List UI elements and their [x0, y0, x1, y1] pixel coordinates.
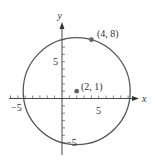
- center-point: [74, 89, 79, 94]
- center-point-label: (2, 1): [81, 81, 103, 93]
- y-axis-label: y: [57, 10, 63, 21]
- x-axis-arrow-icon: [132, 96, 139, 101]
- x-tick-label-neg5: −5: [11, 102, 22, 113]
- circle-point-label: (4, 8): [97, 28, 119, 40]
- y-tick-label-neg5: −5: [66, 137, 77, 148]
- x-axis-label: x: [141, 93, 147, 104]
- y-tick-label-5: 5: [53, 56, 58, 67]
- circle-diagram: y x −5 5 5 −5 (2, 1) (4, 8): [0, 0, 156, 160]
- x-tick-label-5: 5: [96, 105, 101, 116]
- y-axis-arrow-icon: [60, 22, 65, 29]
- circle-point: [89, 37, 94, 42]
